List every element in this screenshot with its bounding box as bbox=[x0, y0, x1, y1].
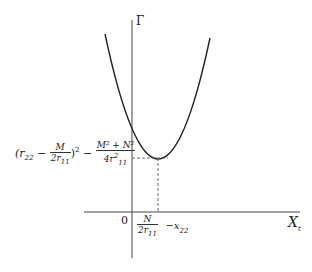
frac1-num: M bbox=[50, 142, 71, 153]
min-x-frac-num: N bbox=[137, 214, 158, 225]
min-x-frac-den-sub: 11 bbox=[148, 230, 157, 238]
frac2-den-sub: 11 bbox=[118, 159, 127, 167]
x-axis-label: Xt bbox=[288, 214, 301, 233]
frac2-num: M² + N² bbox=[96, 140, 136, 151]
fraction-n-over-2r11: N2r11 bbox=[137, 214, 158, 239]
min-x-tail-sub: 22 bbox=[179, 227, 188, 235]
min-value-label: (r22 − M2r11)2 − M² + N²4r211 bbox=[15, 140, 135, 168]
label-part1-open: (r bbox=[15, 147, 25, 160]
frac2-den: 4r211 bbox=[96, 151, 136, 168]
fraction-m2n2-over-4r11: M² + N²4r211 bbox=[96, 140, 136, 168]
x-axis-label-main: X bbox=[288, 214, 298, 230]
label-part2-minus: − bbox=[79, 147, 95, 160]
frac1-den: 2r11 bbox=[50, 153, 71, 167]
min-x-tail: −x bbox=[165, 220, 179, 231]
y-axis-label: Γ bbox=[136, 14, 144, 28]
fraction-m-over-2r11: M2r11 bbox=[50, 142, 71, 167]
min-x-frac-den: 2r11 bbox=[137, 225, 158, 239]
frac1-den-sub: 11 bbox=[61, 157, 70, 165]
min-x-frac-den-main: 2r bbox=[138, 225, 148, 235]
min-x-label: N2r11 −x22 bbox=[137, 214, 188, 239]
x-axis-label-sub: t bbox=[298, 225, 301, 233]
label-part1-minus: − bbox=[33, 147, 49, 160]
frac1-den-main: 2r bbox=[51, 153, 61, 163]
frac2-den-main: 4r bbox=[104, 154, 114, 164]
origin-label: 0 bbox=[121, 214, 128, 227]
